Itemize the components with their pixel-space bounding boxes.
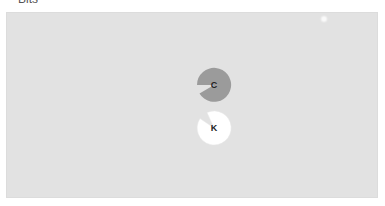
token-k[interactable]: K <box>195 109 233 147</box>
token-c[interactable]: C <box>195 66 233 104</box>
token-letter: C <box>195 66 233 104</box>
sparkle-dot <box>322 17 326 21</box>
top-label: Bits <box>18 0 38 3</box>
token-letter: K <box>195 109 233 147</box>
game-stage[interactable]: C K <box>6 12 378 198</box>
